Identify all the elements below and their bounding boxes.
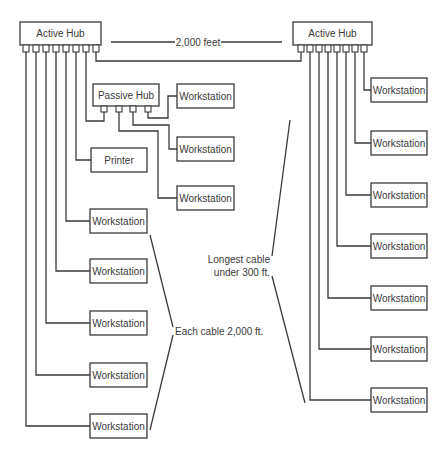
bracket-right-bottom bbox=[272, 276, 305, 403]
passive-hub: Passive Hub bbox=[93, 84, 159, 112]
cable-right-ws-3 bbox=[346, 52, 371, 195]
right-cable-note-line1: Longest cable bbox=[208, 254, 271, 265]
right-workstation-6: Workstation bbox=[371, 337, 427, 361]
right-active-hub: Active Hub bbox=[293, 22, 372, 52]
right-workstation-7: Workstation bbox=[371, 388, 427, 412]
right-cable-note-line2: under 300 ft. bbox=[214, 267, 270, 278]
left-cable-note: Each cable 2,000 ft. bbox=[175, 326, 263, 337]
svg-text:Workstation: Workstation bbox=[373, 293, 426, 304]
cable-right-ws-2 bbox=[355, 52, 371, 143]
svg-text:Workstation: Workstation bbox=[373, 241, 426, 252]
passive-hub-label: Passive Hub bbox=[98, 90, 155, 101]
left-hub-label: Active Hub bbox=[36, 28, 85, 39]
cable-left-ws-4 bbox=[36, 52, 91, 375]
svg-text:Workstation: Workstation bbox=[179, 91, 232, 102]
cable-right-ws-1 bbox=[364, 52, 371, 90]
svg-text:Workstation: Workstation bbox=[373, 395, 426, 406]
svg-text:Workstation: Workstation bbox=[92, 216, 145, 227]
passive-workstation-1: Workstation bbox=[177, 84, 234, 108]
cable-right-ws-4 bbox=[337, 52, 371, 246]
right-workstation-2: Workstation bbox=[371, 131, 427, 155]
left-workstation-2: Workstation bbox=[90, 259, 147, 283]
bracket-right-top bbox=[272, 120, 290, 256]
svg-text:Workstation: Workstation bbox=[179, 144, 232, 155]
hub-link-label: 2,000 feet bbox=[176, 37, 221, 48]
bracket-left-top bbox=[150, 235, 173, 327]
passive-workstation-3: Workstation bbox=[177, 186, 234, 210]
cable-right-ws-6 bbox=[319, 52, 371, 349]
cable-hub-to-hub bbox=[96, 52, 301, 61]
left-active-hub: Active Hub bbox=[20, 22, 101, 52]
right-workstation-4: Workstation bbox=[371, 234, 427, 258]
cable-left-ws-1 bbox=[66, 52, 91, 221]
svg-text:Workstation: Workstation bbox=[92, 370, 145, 381]
left-workstation-3: Workstation bbox=[90, 311, 147, 335]
svg-text:Workstation: Workstation bbox=[373, 190, 426, 201]
svg-text:Workstation: Workstation bbox=[373, 85, 426, 96]
svg-text:Workstation: Workstation bbox=[92, 266, 145, 277]
cable-to-printer bbox=[76, 52, 91, 160]
svg-text:Workstation: Workstation bbox=[373, 138, 426, 149]
svg-text:Workstation: Workstation bbox=[92, 318, 145, 329]
svg-text:Workstation: Workstation bbox=[373, 344, 426, 355]
passive-workstation-2: Workstation bbox=[177, 137, 234, 161]
network-diagram: Active Hub Active Hub 2,000 feet Passive… bbox=[0, 0, 447, 456]
cable-left-ws-3 bbox=[46, 52, 91, 323]
bracket-left-bottom bbox=[150, 335, 173, 430]
right-hub-label: Active Hub bbox=[308, 28, 357, 39]
right-workstation-1: Workstation bbox=[371, 78, 427, 102]
printer: Printer bbox=[91, 148, 147, 172]
right-workstation-3: Workstation bbox=[371, 183, 427, 207]
svg-text:Workstation: Workstation bbox=[179, 193, 232, 204]
left-workstation-4: Workstation bbox=[90, 363, 147, 387]
printer-label: Printer bbox=[104, 155, 134, 166]
left-workstation-1: Workstation bbox=[90, 209, 147, 233]
right-workstation-5: Workstation bbox=[371, 286, 427, 310]
left-workstation-5: Workstation bbox=[90, 414, 147, 438]
svg-text:Workstation: Workstation bbox=[92, 421, 145, 432]
